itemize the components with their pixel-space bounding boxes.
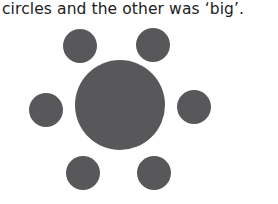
small-circle — [29, 93, 63, 127]
small-circle — [177, 90, 211, 124]
small-circle — [66, 156, 100, 190]
small-circle — [137, 156, 171, 190]
small-circle — [63, 29, 97, 63]
circles-figure — [0, 0, 278, 204]
big-circle — [75, 60, 165, 150]
small-circle — [136, 28, 170, 62]
